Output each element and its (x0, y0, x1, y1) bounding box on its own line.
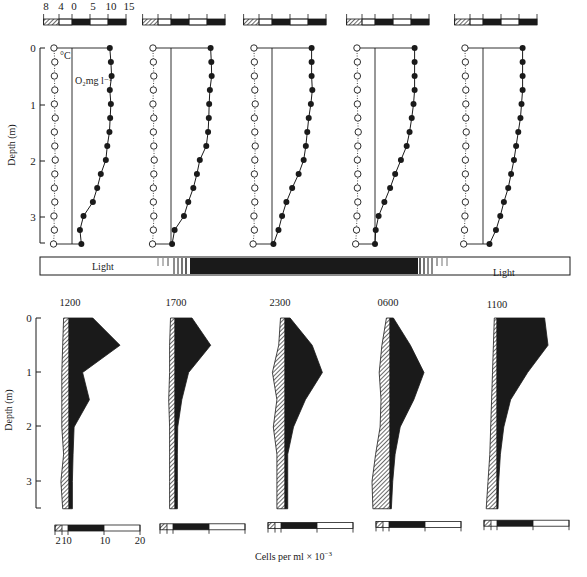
temperature-point (462, 73, 468, 79)
time-label-1100: 1100 (487, 299, 508, 310)
oxygen-point (519, 101, 525, 107)
temperature-point (354, 45, 360, 51)
oxygen-point (301, 157, 307, 163)
temperature-point (462, 171, 468, 177)
depth-axis-label: Depth (m) (6, 124, 18, 165)
temperature-point (252, 143, 258, 149)
oxygen-point (520, 73, 526, 79)
temperature-point (462, 59, 468, 65)
temperature-point (150, 185, 156, 191)
temperature-point (51, 213, 57, 219)
scale-bar-1700 (143, 14, 225, 25)
depth-tick-1: 1 (30, 99, 36, 111)
cells-scale-bar-1700 (160, 524, 245, 534)
oxygen-point (283, 199, 289, 205)
temperature-point (462, 45, 468, 51)
solid-population (69, 318, 120, 509)
oxygen-point (207, 87, 213, 93)
temperature-point (51, 227, 57, 233)
oxygen-point (81, 213, 87, 219)
oxygen-point (520, 59, 526, 65)
temperature-point (355, 115, 361, 121)
oxygen-point (185, 199, 191, 205)
temperature-point (150, 45, 156, 51)
temperature-point (149, 241, 155, 247)
profile-panel-1100 (460, 45, 525, 247)
oxygen-point (309, 45, 315, 51)
depth-tick-3: 3 (26, 475, 32, 487)
bottom-depth-axis: 0 1 2 3 Depth (m) (3, 312, 41, 508)
top-depth-axis: 0 1 2 3 Depth (m) (6, 42, 45, 243)
profile-panels (50, 45, 525, 247)
depth-axis-label: Depth (m) (3, 389, 15, 430)
temperature-point (150, 199, 156, 205)
oxygen-point (107, 45, 113, 51)
top-scale-labels: 8 4 0 5 10 15 (43, 0, 135, 12)
oxygen-point (308, 101, 314, 107)
oxygen-point (197, 157, 203, 163)
temperature-point (462, 213, 468, 219)
solid-population (390, 318, 424, 509)
light-regime-bar: Light Light (40, 257, 570, 278)
bottom-scale-labels: 2 1 0 10 20 (55, 535, 145, 546)
temperature-point (150, 87, 156, 93)
oxygen-point (409, 115, 415, 121)
oxygen-point (520, 45, 526, 51)
time-label-1700: 1700 (166, 297, 187, 308)
scale-bar-1100 (455, 14, 537, 25)
cells-axis-label: Cells per ml × 10−3 (255, 550, 332, 562)
temperature-point (354, 101, 360, 107)
solid-population (285, 318, 322, 509)
oxygen-point (515, 129, 521, 135)
oxygen-point (205, 129, 211, 135)
temperature-point (354, 87, 360, 93)
kite-panel-1100 (486, 318, 548, 509)
cells-tick-0: 0 (66, 535, 71, 546)
oxygen-point (493, 227, 499, 233)
scale-tick-0: 0 (71, 0, 77, 12)
depth-tick-0: 0 (26, 312, 32, 324)
oxygen-point (508, 171, 514, 177)
oxygen-point (270, 241, 276, 247)
temperature-point (52, 199, 58, 205)
oxygen-point (376, 213, 382, 219)
time-labels: 1200 1700 2300 0600 1100 (60, 297, 508, 310)
scale-bar-1200 (44, 14, 126, 25)
temperature-point (354, 185, 360, 191)
oxygen-point (94, 185, 100, 191)
profile-panel-1700 (149, 45, 214, 247)
depth-tick-2: 2 (26, 420, 32, 432)
oxygen-point (206, 115, 212, 121)
profile-panel-0600 (352, 45, 417, 247)
oxygen-point (107, 115, 113, 121)
light-label-left: Light (92, 261, 114, 272)
temperature-point (151, 157, 157, 163)
temperature-point (251, 73, 257, 79)
oxygen-point (104, 143, 110, 149)
oxygen-point (275, 227, 281, 233)
oxygen-point (412, 87, 418, 93)
oxygen-point (206, 101, 212, 107)
oxygen-point (106, 129, 112, 135)
oxygen-point (309, 87, 315, 93)
oxygen-point (381, 199, 387, 205)
scale-bar-2300 (244, 14, 326, 25)
oxygen-point (412, 45, 418, 51)
temperature-point (52, 87, 58, 93)
scale-tick-4: 4 (58, 0, 64, 12)
oxygen-point (190, 185, 196, 191)
oxygen-point (77, 227, 83, 233)
temperature-point (151, 143, 157, 149)
temperature-point (462, 199, 468, 205)
temperature-point (354, 59, 360, 65)
solid-population (175, 318, 211, 509)
temperature-label: °C (60, 50, 71, 61)
cells-tick-10: 10 (100, 535, 111, 546)
oxygen-point (90, 199, 96, 205)
temperature-point (463, 101, 469, 107)
kite-panel-0600 (372, 318, 424, 509)
temperature-point (50, 241, 56, 247)
oxygen-point (513, 143, 519, 149)
oxygen-point (501, 199, 507, 205)
temperature-point (354, 73, 360, 79)
